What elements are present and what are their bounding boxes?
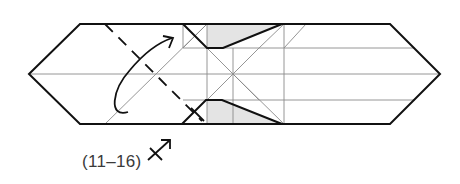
step-reference-label: (11–16) [82,152,141,172]
origami-diagram [0,0,460,184]
x-ray-arrow-symbol [148,140,170,160]
bottom-cross-mark [191,108,204,121]
valley-fold-dashed-line [105,24,202,121]
curved-fold-arrow [115,38,172,113]
